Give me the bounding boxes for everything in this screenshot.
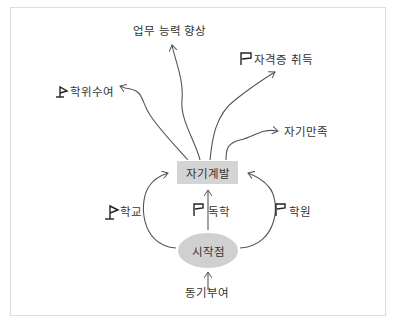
path-school: 학교: [120, 205, 142, 219]
flag-icon-degree: [56, 87, 67, 97]
arrow-school: [143, 173, 176, 248]
flag-icon-certificate: [241, 53, 251, 65]
path-academy: 학원: [289, 205, 311, 219]
path-self-study: 독학: [208, 205, 230, 219]
self-development-box: 자기계발: [177, 161, 238, 184]
start-node: 시작점: [178, 233, 238, 268]
outcome-work-skill: 업무 능력 향상: [133, 24, 206, 38]
motivation-label: 동기부여: [185, 286, 229, 300]
flag-icon-academy: [276, 204, 285, 216]
outcome-certificate: 자격증 취득: [254, 53, 313, 67]
arrow-to-satisfaction: [226, 130, 278, 160]
flag-icon-self-study: [194, 204, 203, 216]
outcome-satisfaction: 자기만족: [284, 125, 328, 139]
outcome-degree: 학위수여: [70, 85, 114, 99]
arrow-to-certificate: [210, 72, 275, 160]
arrow-to-work-skill: [172, 45, 200, 160]
flag-icon-school: [105, 206, 118, 219]
arrow-to-degree: [120, 86, 188, 160]
arrow-academy: [240, 173, 275, 248]
